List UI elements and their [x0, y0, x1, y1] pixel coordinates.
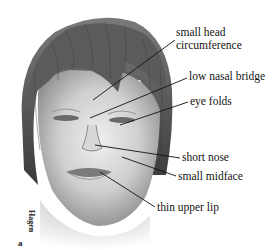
label-short-nose: short nose: [182, 151, 229, 164]
labeled-face-illustration: small head circumference low nasal bridg…: [0, 0, 272, 250]
label-low-nasal-bridge: low nasal bridge: [189, 70, 265, 83]
label-line-1: small head: [176, 26, 242, 39]
right-eye: [109, 117, 135, 123]
left-eye: [53, 115, 79, 121]
artist-signature: Hagen: [27, 210, 36, 232]
label-thin-upper-lip: thin upper lip: [157, 201, 219, 214]
panel-letter: a: [18, 238, 23, 248]
label-small-head-circumference: small head circumference: [176, 26, 242, 52]
label-eye-folds: eye folds: [190, 95, 232, 108]
label-line-2: circumference: [176, 39, 242, 52]
label-small-midface: small midface: [178, 170, 243, 183]
